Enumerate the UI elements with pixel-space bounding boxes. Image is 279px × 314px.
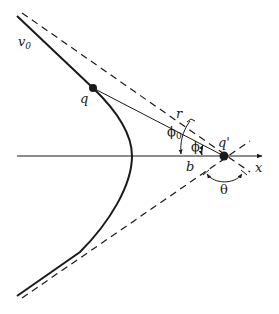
label-b: b (186, 159, 194, 174)
label-phi0: ϕ0 (167, 124, 182, 141)
label-theta: θ (220, 182, 228, 197)
target-q-prime-dot (220, 152, 229, 161)
label-q: q (80, 91, 88, 106)
label-trajectory: v0 (18, 34, 31, 51)
lower-asymptote (22, 141, 250, 298)
phi-arc (201, 145, 203, 155)
radius-line (93, 88, 224, 156)
label-phi: ϕ (191, 139, 200, 154)
label-r: r (176, 106, 183, 121)
upper-asymptote (22, 13, 250, 172)
projectile-q-dot (89, 84, 97, 92)
theta-arc (207, 174, 242, 182)
label-q-prime: q' (218, 135, 230, 150)
label-x: x (255, 160, 263, 175)
phi0-marker (187, 119, 195, 122)
scattering-diagram: v0 q q' r ϕ0 ϕ b x θ (0, 0, 279, 314)
